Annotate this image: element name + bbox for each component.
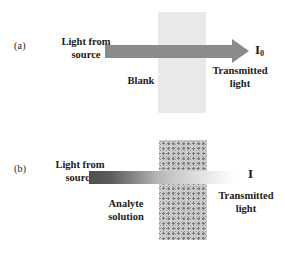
transmitted-intensity-symbol: I (248, 166, 253, 182)
beam-arrowhead-icon (232, 39, 249, 63)
spectrophotometry-diagram: (a) Light from source I0 Blank Transmitt… (0, 0, 285, 253)
blank-cuvette-label: Blank (113, 75, 169, 87)
analyte-cuvette-label-line1: Analyte (95, 198, 157, 211)
incident-intensity-symbol: I0 (255, 42, 264, 58)
panel-b: (b) Light from source I Analyte solution… (0, 126, 285, 253)
panel-a-transmitted-label-line2: light (198, 78, 282, 91)
blank-cuvette (158, 12, 206, 113)
panel-b-source-label-line1: Light from (40, 159, 120, 172)
panel-a-transmitted-label: Transmitted light (198, 65, 282, 90)
analyte-cuvette-label: Analyte solution (95, 198, 157, 223)
panel-a: (a) Light from source I0 Blank Transmitt… (0, 0, 285, 126)
panel-a-transmitted-label-line1: Transmitted (198, 65, 282, 78)
incident-light-beam-a (105, 45, 233, 58)
panel-b-letter: (b) (14, 163, 26, 174)
analyte-cuvette-label-line2: solution (95, 211, 157, 224)
panel-b-transmitted-label-line2: light (204, 203, 285, 216)
attenuated-light-beam-b (89, 171, 235, 184)
panel-b-transmitted-label: Transmitted light (204, 190, 285, 215)
analyte-cuvette (159, 140, 207, 240)
panel-a-letter: (a) (14, 40, 26, 51)
intensity-symbol-subscript: 0 (260, 49, 264, 58)
panel-b-transmitted-label-line1: Transmitted (204, 190, 285, 203)
